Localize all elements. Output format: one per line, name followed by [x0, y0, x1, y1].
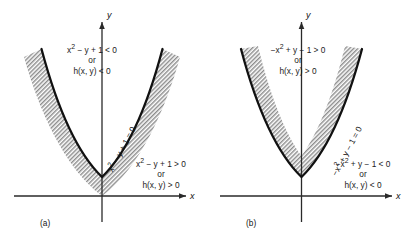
inside-region-line1-a: x2 − y + 1 < 0 [48, 42, 136, 55]
inside-region-line2-a: h(x, y) < 0 [48, 66, 136, 77]
y-axis-arrow-b [299, 22, 305, 29]
panel-a: x2 − y + 1 < 0 or h(x, y) < 0 x2 − y + 1… [0, 0, 206, 246]
outside-region-line1-a: x2 − y + 1 > 0 [118, 156, 204, 169]
outside-region-label-a: x2 − y + 1 > 0 or h(x, y) > 0 [118, 156, 204, 191]
outside-region-line2-a: h(x, y) > 0 [118, 180, 204, 191]
outside-region-or-a: or [118, 169, 204, 180]
y-axis-arrow-a [99, 22, 105, 29]
inside-region-line2-b: h(x, y) > 0 [248, 66, 348, 77]
panel-a-graphic [0, 0, 206, 246]
inside-region-or-a: or [48, 55, 136, 66]
y-axis-label-b: y [306, 10, 311, 20]
y-axis-label-a: y [107, 10, 112, 20]
inside-region-label-b: −x2 + y − 1 > 0 or h(x, y) > 0 [248, 42, 348, 77]
inside-region-label-a: x2 − y + 1 < 0 or h(x, y) < 0 [48, 42, 136, 77]
outside-region-line2-b: h(x, y) < 0 [316, 180, 410, 191]
panel-b-graphic [206, 0, 412, 246]
x-axis-arrow-a [179, 193, 186, 199]
inside-region-line1-b: −x2 + y − 1 > 0 [248, 42, 348, 55]
panel-caption-b: (b) [246, 218, 256, 228]
inside-region-or-b: or [248, 55, 348, 66]
x-axis-label-b: x [396, 191, 401, 201]
x-axis-label-a: x [190, 191, 195, 201]
panel-b: −x2 + y − 1 > 0 or h(x, y) > 0 −x2 + y −… [206, 0, 412, 246]
figure-root: x2 − y + 1 < 0 or h(x, y) < 0 x2 − y + 1… [0, 0, 412, 246]
x-axis-arrow-b [385, 193, 392, 199]
panel-caption-a: (a) [40, 218, 50, 228]
